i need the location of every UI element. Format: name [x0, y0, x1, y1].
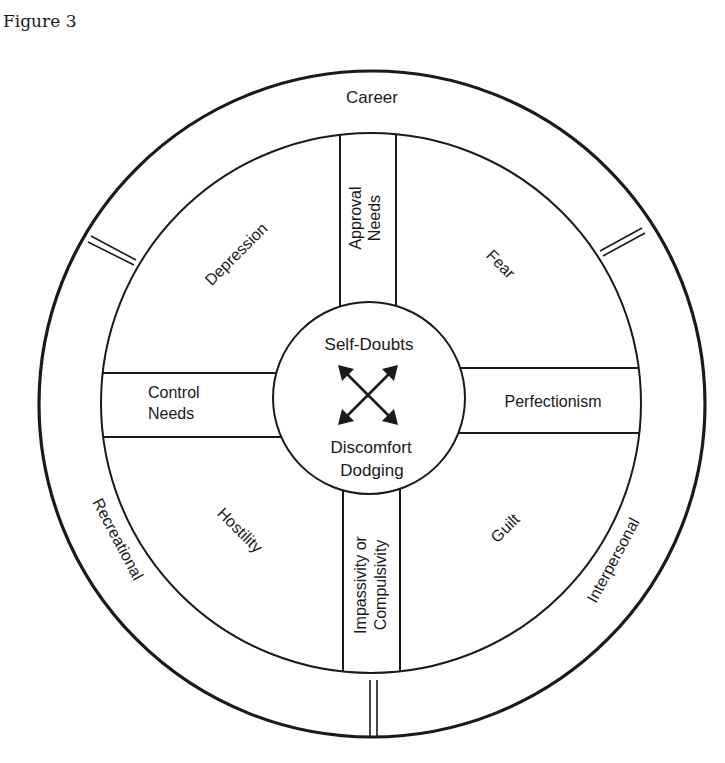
center-dodging-label: Dodging [340, 461, 403, 480]
band-label-approval: Approval [347, 186, 364, 249]
band-label-impassivity: Impassivity or [352, 535, 369, 633]
center-discomfort-label: Discomfort [330, 438, 412, 457]
ring-label-career: Career [346, 88, 398, 107]
ring-label-interpersonal: Interpersonal [584, 515, 643, 605]
band-label-compulsivity: Compulsivity [372, 540, 389, 631]
band-label-control-needs: Needs [148, 405, 194, 422]
band-label-perfectionism: Perfectionism [505, 393, 602, 410]
quadrant-label-guilt: Guilt [487, 510, 523, 546]
quadrant-label-depression: Depression [201, 219, 270, 288]
quadrant-label-hostility: Hostility [214, 504, 266, 556]
ring-divider-left [88, 236, 136, 265]
center-self-doubts-label: Self-Doubts [325, 335, 414, 354]
band-label-approval-needs: Needs [366, 195, 383, 241]
cognitive-wheel-diagram: Self-Doubts Discomfort Dodging Career Re… [0, 0, 725, 763]
ring-divider-bottom [370, 680, 377, 737]
band-label-control: Control [148, 384, 200, 401]
quadrant-label-fear: Fear [483, 246, 519, 282]
ring-divider-right [600, 228, 645, 256]
